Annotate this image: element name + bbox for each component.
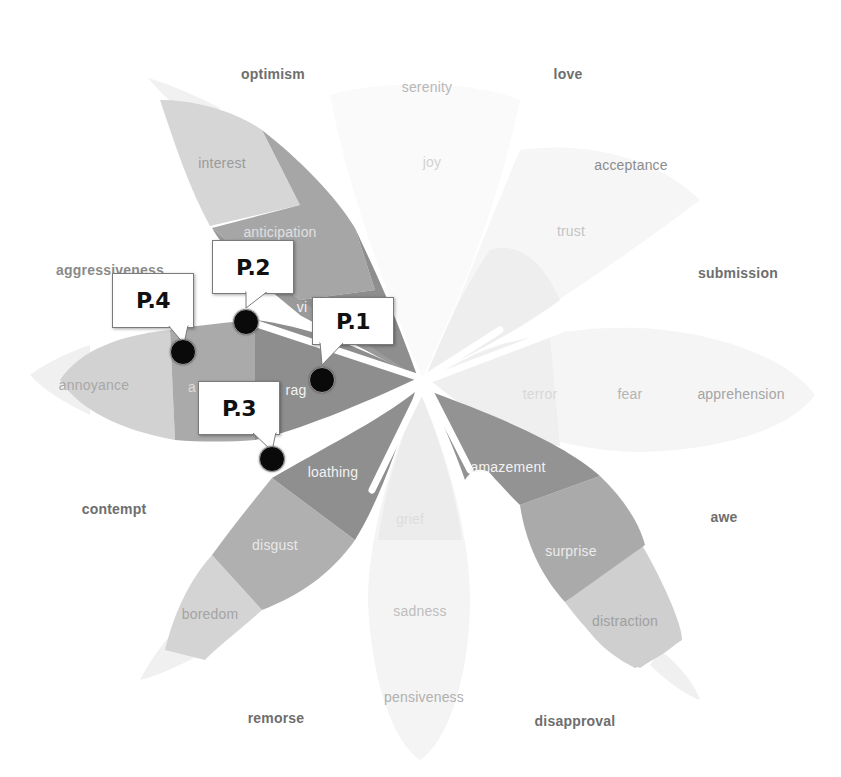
callout-p2[interactable]: P.2 <box>212 240 294 294</box>
label-trust: trust <box>557 223 585 239</box>
label-pensiveness: pensiveness <box>384 689 464 705</box>
label-submission: submission <box>698 265 778 281</box>
label-vigilance-partial: vi <box>297 299 308 315</box>
label-awe: awe <box>710 509 737 525</box>
label-boredom: boredom <box>182 606 239 622</box>
label-disapproval: disapproval <box>535 713 616 729</box>
callout-p4[interactable]: P.4 <box>112 273 194 328</box>
marker-p4[interactable] <box>170 339 196 365</box>
marker-p2[interactable] <box>233 309 259 335</box>
label-annoyance: annoyance <box>59 377 129 393</box>
label-acceptance: acceptance <box>594 157 668 173</box>
callout-p2-label: P.2 <box>236 255 270 280</box>
label-amazement: amazement <box>471 459 546 475</box>
label-interest: interest <box>198 155 246 171</box>
callout-p1-label: P.1 <box>336 309 370 334</box>
marker-p3[interactable] <box>259 446 285 472</box>
label-loathing: loathing <box>308 464 359 480</box>
label-disgust: disgust <box>252 537 298 553</box>
label-distraction: distraction <box>592 613 658 629</box>
label-surprise: surprise <box>545 543 596 559</box>
callout-p3[interactable]: P.3 <box>198 381 280 435</box>
marker-p1[interactable] <box>309 367 335 393</box>
callout-p1-tail <box>316 341 350 369</box>
label-grief: grief <box>396 511 424 527</box>
label-love: love <box>554 66 583 82</box>
label-anticipation: anticipation <box>243 224 316 240</box>
label-remorse: remorse <box>248 710 305 726</box>
label-terror: terror <box>523 386 558 402</box>
label-contempt: contempt <box>82 501 147 517</box>
label-anger-partial: a <box>188 379 196 395</box>
label-serenity: serenity <box>402 79 453 95</box>
label-optimism: optimism <box>241 66 305 82</box>
callout-p3-label: P.3 <box>222 396 256 421</box>
label-sadness: sadness <box>393 603 447 619</box>
callout-p1[interactable]: P.1 <box>312 297 394 345</box>
label-fear: fear <box>618 386 643 402</box>
callout-p4-label: P.4 <box>136 288 170 313</box>
label-joy: joy <box>423 154 442 170</box>
label-apprehension: apprehension <box>697 386 784 402</box>
label-rage-partial: rag <box>286 382 307 398</box>
